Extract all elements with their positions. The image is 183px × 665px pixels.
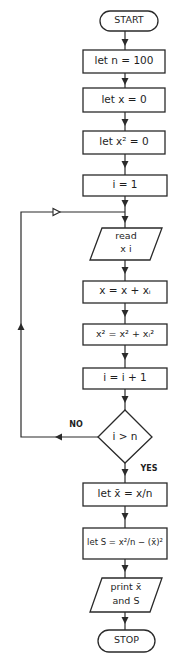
- sumsq-label: x² = x² + xᵢ²: [83, 329, 167, 339]
- start-label: START: [100, 15, 158, 25]
- yes-branch-label: YES: [136, 465, 162, 473]
- read-label-line1: read: [90, 231, 162, 241]
- i-equals-1-label: i = 1: [83, 179, 167, 190]
- decision-label: i > n: [98, 431, 152, 442]
- no-branch-label: NO: [64, 421, 88, 429]
- increment-label: i = i + 1: [83, 372, 167, 383]
- mean-label: let x̄ = x/n: [83, 488, 167, 499]
- stop-label: STOP: [98, 635, 155, 645]
- let-x2-label: let x² = 0: [83, 136, 165, 147]
- sum-label: x = x + xᵢ: [83, 285, 167, 296]
- read-label-line2: x i: [90, 244, 162, 254]
- print-label-line1: print x̄: [90, 582, 162, 592]
- variance-label: let S = x²/n − (x̄)²: [83, 538, 167, 547]
- let-x-label: let x = 0: [83, 94, 165, 105]
- let-n-label: let n = 100: [83, 55, 165, 66]
- flowchart-canvas: START let n = 100 let x = 0 let x² = 0 i…: [0, 0, 183, 665]
- print-label-line2: and S: [90, 596, 162, 606]
